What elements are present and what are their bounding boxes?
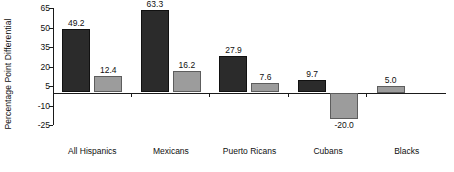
bar bbox=[330, 93, 358, 119]
x-axis-category-label: Puerto Ricans bbox=[223, 146, 276, 156]
bar-value-label: 27.9 bbox=[225, 45, 242, 55]
bar-value-label: -20.0 bbox=[334, 120, 353, 130]
bar bbox=[141, 10, 169, 92]
bar-value-label: 12.4 bbox=[100, 65, 117, 75]
y-axis-tick-label: 5 bbox=[24, 81, 50, 91]
y-axis-tick-label: -10 bbox=[24, 101, 50, 111]
bar bbox=[298, 80, 326, 93]
bar-value-label: 5.0 bbox=[385, 75, 397, 85]
y-axis-tick-label: 50 bbox=[24, 23, 50, 33]
bar-value-label: 49.2 bbox=[68, 18, 85, 28]
bar-group: 49.212.4 bbox=[53, 8, 132, 140]
bar-value-label: 9.7 bbox=[306, 69, 318, 79]
bar bbox=[173, 71, 201, 92]
x-axis-category-labels: All HispanicsMexicansPuerto RicansCubans… bbox=[18, 146, 448, 162]
bar bbox=[94, 76, 122, 92]
y-axis-tick-label: 20 bbox=[24, 62, 50, 72]
bar-value-label: 63.3 bbox=[147, 0, 164, 9]
x-axis-category-label: All Hispanics bbox=[68, 146, 117, 156]
bar bbox=[251, 83, 279, 93]
x-axis-category-label: Cubans bbox=[313, 146, 342, 156]
bar-value-label: 16.2 bbox=[179, 60, 196, 70]
bar-group: 9.7-20.0 bbox=[289, 8, 368, 140]
bars-area: 49.212.463.316.227.97.69.7-20.05.0 bbox=[53, 8, 446, 140]
x-axis-category-label: Mexicans bbox=[153, 146, 189, 156]
y-axis-tick-label: 65 bbox=[24, 3, 50, 13]
bar-value-label: 7.6 bbox=[260, 72, 272, 82]
bar bbox=[219, 56, 247, 92]
x-axis-category-label: Blacks bbox=[394, 146, 419, 156]
y-axis-title-text: Percentage Point Differential bbox=[3, 19, 13, 130]
y-axis-tick-label: -25 bbox=[24, 120, 50, 130]
bar-group: 27.97.6 bbox=[210, 8, 289, 140]
bar-group: 63.316.2 bbox=[132, 8, 211, 140]
bar bbox=[62, 29, 90, 93]
chart-screenshot: Percentage Point Differential 655035205-… bbox=[0, 0, 454, 172]
y-axis-title: Percentage Point Differential bbox=[0, 0, 16, 148]
bar bbox=[377, 86, 405, 93]
plot-area: 655035205-10-25 49.212.463.316.227.97.69… bbox=[18, 8, 448, 140]
y-axis-tick-label: 35 bbox=[24, 42, 50, 52]
bar-group: 5.0 bbox=[367, 8, 446, 140]
